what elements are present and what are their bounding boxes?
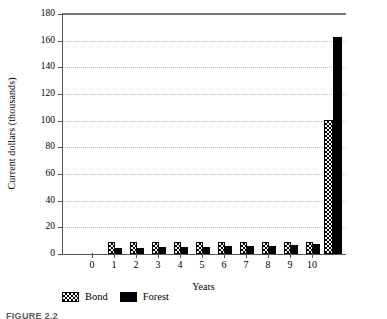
y-tick-label-120: 120	[41, 89, 55, 99]
bar-forest-total	[333, 37, 342, 254]
y-tick-label-160: 160	[41, 36, 55, 46]
y-tick-20	[58, 227, 63, 228]
forest-solid-swatch	[120, 292, 137, 302]
x-tick-label-10: 10	[307, 260, 317, 270]
x-axis: 012345678910	[62, 253, 345, 254]
y-tick-label-80: 80	[46, 143, 56, 153]
y-tick-60	[58, 174, 63, 175]
bond-hatch-swatch	[62, 292, 79, 302]
x-tick-label-5: 5	[200, 260, 205, 270]
x-tick-6	[224, 253, 225, 258]
y-tick-0	[58, 254, 63, 255]
y-tick-label-60: 60	[46, 169, 56, 179]
x-tick-0	[92, 253, 93, 258]
y-tick-label-140: 140	[41, 63, 55, 73]
x-tick-1	[114, 253, 115, 258]
y-tick-100	[58, 121, 63, 122]
x-tick-8	[268, 253, 269, 258]
y-tick-label-40: 40	[46, 196, 56, 206]
x-tick-label-9: 9	[288, 260, 293, 270]
y-tick-160	[58, 41, 63, 42]
y-tick-80	[58, 147, 63, 148]
y-tick-label-100: 100	[41, 116, 55, 126]
gridline-120	[63, 94, 346, 95]
y-tick-140	[58, 67, 63, 68]
gridline-60	[63, 174, 346, 175]
gridline-0	[63, 254, 346, 255]
gridline-140	[63, 67, 346, 68]
x-tick-label-8: 8	[266, 260, 271, 270]
y-tick-120	[58, 94, 63, 95]
gridline-100	[63, 121, 346, 122]
legend: Bond Forest	[62, 291, 169, 302]
x-tick-4	[180, 253, 181, 258]
y-axis-title-text: Current dollars (thousands)	[6, 77, 17, 189]
legend-label-forest: Forest	[143, 291, 169, 302]
y-tick-label-180: 180	[41, 9, 55, 19]
legend-item-bond: Bond	[62, 291, 108, 302]
gridline-160	[63, 41, 346, 42]
gridline-80	[63, 147, 346, 148]
x-tick-10	[312, 253, 313, 258]
legend-item-forest: Forest	[120, 291, 169, 302]
x-tick-3	[158, 253, 159, 258]
x-tick-7	[246, 253, 247, 258]
gridline-40	[63, 201, 346, 202]
x-tick-5	[202, 253, 203, 258]
plot-area: 020406080100120140160180	[62, 13, 346, 254]
x-tick-label-4: 4	[178, 260, 183, 270]
y-tick-180	[58, 14, 63, 15]
x-tick-label-0: 0	[90, 260, 95, 270]
x-tick-9	[290, 253, 291, 258]
figure-bar-chart: Current dollars (thousands) 020406080100…	[0, 0, 387, 319]
x-tick-label-1: 1	[112, 260, 117, 270]
x-tick-label-3: 3	[156, 260, 161, 270]
x-tick-label-7: 7	[244, 260, 249, 270]
y-axis-title: Current dollars (thousands)	[4, 13, 18, 253]
x-tick-2	[136, 253, 137, 258]
y-tick-40	[58, 201, 63, 202]
gridline-20	[63, 227, 346, 228]
gridline-180	[63, 14, 346, 15]
x-tick-label-2: 2	[134, 260, 139, 270]
x-tick-label-6: 6	[222, 260, 227, 270]
figure-caption: FIGURE 2.2	[6, 311, 58, 319]
legend-label-bond: Bond	[85, 291, 108, 302]
y-tick-label-20: 20	[46, 223, 56, 233]
y-tick-label-0: 0	[50, 249, 55, 259]
bar-bond-total	[324, 120, 333, 254]
